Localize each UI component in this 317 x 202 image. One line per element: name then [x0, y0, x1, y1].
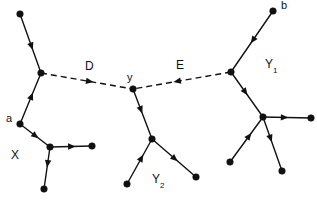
- edge-y1-bottomleft-to-hub: [230, 117, 263, 162]
- node-y1-right: [308, 115, 315, 122]
- node-x-junction: [38, 70, 45, 77]
- edge-y1-hub-to-bottom: [263, 117, 282, 171]
- edge-a-to-x-hub-arrowhead-icon: [31, 131, 39, 138]
- edge-x-hub-to-bottom-arrowhead-icon: [45, 160, 51, 168]
- region-label-x: X: [11, 149, 19, 161]
- node-y1-bottom: [279, 168, 286, 175]
- edge-a-to-x-junction-arrowhead-icon: [27, 92, 33, 100]
- node-x-right: [89, 143, 96, 150]
- edge-y2-left-to-hub: [127, 139, 152, 184]
- edge-bridge-e-arrowhead-icon: [173, 78, 181, 84]
- arrow-layer: [27, 35, 288, 167]
- edge-b-to-y1-junction-arrowhead-icon: [251, 35, 258, 43]
- region-label-y1-base: Y: [265, 57, 273, 71]
- node-y2-right: [193, 174, 200, 181]
- region-label-y1: Y1: [265, 58, 277, 73]
- node-a: [17, 121, 24, 128]
- region-label-y2-subscript: 2: [160, 181, 164, 190]
- edge-y-to-y2-hub-arrowhead-icon: [137, 105, 143, 113]
- node-x-hub: [47, 144, 54, 151]
- node-y2-hub: [149, 136, 156, 143]
- node-x-top: [17, 11, 24, 18]
- node-label-a: a: [6, 113, 12, 124]
- node-b: [270, 8, 277, 15]
- edge-x-hub-to-bottom: [44, 147, 50, 189]
- edge-bridge-d-arrowhead-icon: [86, 78, 94, 84]
- node-y1-bottomleft: [227, 159, 234, 166]
- node-y1-junction: [228, 69, 235, 76]
- node-label-y: y: [127, 72, 133, 83]
- edge-y-to-y2-hub: [133, 89, 152, 139]
- node-y: [130, 86, 137, 93]
- edge-layer: [20, 11, 311, 189]
- node-x-bottom: [41, 186, 48, 193]
- edge-label-d: D: [85, 60, 94, 72]
- edge-y1-junction-to-hub-arrowhead-icon: [241, 87, 248, 95]
- node-y1-hub: [260, 114, 267, 121]
- node-y2-left: [124, 181, 131, 188]
- node-layer: [17, 8, 315, 193]
- edge-y1-hub-to-bottom-arrowhead-icon: [266, 134, 272, 142]
- edge-bridge-e: [133, 72, 231, 89]
- region-label-y2: Y2: [152, 173, 164, 188]
- region-label-y1-subscript: 1: [273, 66, 277, 75]
- edge-x-top-to-junction-arrowhead-icon: [27, 42, 33, 50]
- edge-y1-hub-to-right-arrowhead-icon: [281, 114, 289, 120]
- edge-x-hub-to-right-arrowhead-icon: [68, 143, 76, 149]
- region-label-y2-base: Y: [152, 172, 160, 186]
- edge-label-e: E: [176, 59, 184, 71]
- node-label-b: b: [281, 0, 287, 11]
- graph-figure: D E y a b X Y1 Y2: [0, 0, 317, 202]
- edge-y1-bottomleft-to-hub-arrowhead-icon: [244, 133, 251, 141]
